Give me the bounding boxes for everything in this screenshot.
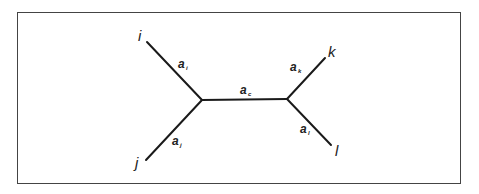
branch-label-ai: a i [178,57,188,71]
branch-label-ak-sub: k [298,68,302,74]
leaf-label-l: l [335,142,339,159]
tree-diagram: i j k l a i a j a c a k a l [0,0,479,194]
edge-i [147,42,202,100]
branch-label-al-sub: l [308,130,310,136]
leaf-label-k: k [328,43,337,60]
branch-label-ac-base: a [240,83,247,97]
branch-label-ac: a c [240,83,252,97]
branch-label-ak-base: a [290,60,297,74]
branch-label-aj-base: a [172,134,179,148]
leaf-label-j: j [133,154,139,171]
branch-label-aj: a j [172,134,182,148]
edge-j [146,100,202,160]
edge-l [287,99,331,145]
branch-label-ac-sub: c [248,91,252,97]
branch-label-ai-base: a [178,57,185,71]
edge-c [202,99,287,100]
leaf-label-i: i [138,27,142,44]
branch-label-aj-sub: j [179,142,182,148]
branch-label-al-base: a [300,122,307,136]
branch-label-ak: a k [290,60,302,74]
branch-label-al: a l [300,122,310,136]
branch-label-ai-sub: i [186,65,188,71]
